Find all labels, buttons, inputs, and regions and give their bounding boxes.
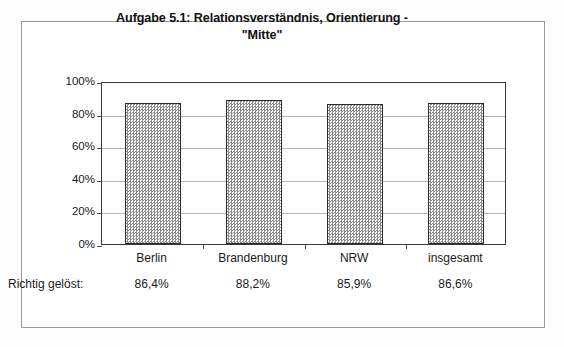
- x-axis-label-berlin: Berlin: [101, 249, 202, 267]
- data-value-berlin: 86,4%: [101, 275, 202, 293]
- y-axis-tick-label: 0%: [49, 239, 95, 251]
- data-value-nrw: 85,9%: [304, 275, 405, 293]
- data-value-brandenburg: 88,2%: [202, 275, 303, 293]
- plot-area: [101, 82, 506, 245]
- y-axis-tick-label: 20%: [49, 206, 95, 218]
- bars-layer: [102, 83, 505, 244]
- chart-figure: Aufgabe 5.1: Relationsverständnis, Orien…: [0, 0, 564, 347]
- data-value-insgesamt: 86,6%: [405, 275, 506, 293]
- y-axis-labels: 100%80%60%40%20%0%: [47, 82, 95, 245]
- chart-title: Aufgabe 5.1: Relationsverständnis, Orien…: [40, 10, 484, 44]
- y-axis-tick-label: 100%: [49, 76, 95, 88]
- x-axis-label-brandenburg: Brandenburg: [202, 249, 303, 267]
- bar-slot: [102, 83, 203, 244]
- bar-slot: [406, 83, 507, 244]
- y-axis-tick-label: 60%: [49, 141, 95, 153]
- bar-berlin[interactable]: [125, 103, 181, 244]
- bar-brandenburg[interactable]: [226, 100, 282, 244]
- y-axis-tick: [97, 246, 102, 247]
- bar-slot: [305, 83, 406, 244]
- y-axis-tick-label: 40%: [49, 174, 95, 186]
- chart-title-line-2: "Mitte": [40, 27, 484, 44]
- bar-slot: [203, 83, 304, 244]
- x-axis-category-labels: BerlinBrandenburgNRWinsgesamt: [101, 249, 506, 269]
- y-axis-tick-label: 80%: [49, 109, 95, 121]
- bar-insgesamt[interactable]: [428, 103, 484, 244]
- chart-title-line-1: Aufgabe 5.1: Relationsverständnis, Orien…: [40, 10, 484, 27]
- bar-nrw[interactable]: [327, 104, 383, 244]
- x-axis-label-nrw: NRW: [304, 249, 405, 267]
- data-value-row: 86,4%88,2%85,9%86,6%: [101, 275, 506, 295]
- x-axis-label-insgesamt: insgesamt: [405, 249, 506, 267]
